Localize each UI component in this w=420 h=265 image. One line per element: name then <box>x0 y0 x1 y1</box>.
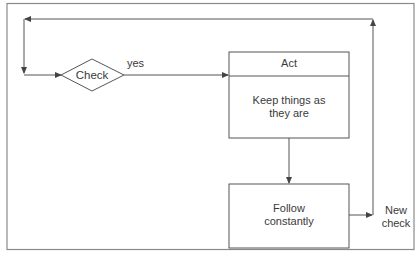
follow-line1: Follow <box>229 202 349 215</box>
act-body-line2: they are <box>229 107 349 120</box>
diagram-canvas <box>0 0 420 265</box>
new-check-line1: New <box>378 204 414 217</box>
yes-label: yes <box>127 57 147 70</box>
follow-line2: constantly <box>229 215 349 228</box>
check-label: Check <box>70 69 114 82</box>
outer-frame <box>7 4 414 250</box>
act-header-label: Act <box>229 57 349 70</box>
new-check-line2: check <box>378 217 414 230</box>
act-body-line1: Keep things as <box>229 94 349 107</box>
